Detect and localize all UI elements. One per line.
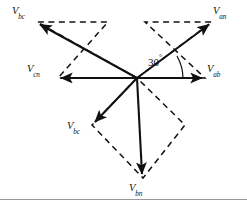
label-vcn-sub: cn xyxy=(33,71,40,79)
label-vbc-lower: Vbc xyxy=(67,121,80,134)
label-van-sub: an xyxy=(219,13,226,21)
phasor-vector-van xyxy=(137,25,209,79)
label-vbn-sub: bn xyxy=(135,190,142,198)
phasor-vector-vbc-upper xyxy=(40,25,137,79)
label-vbc-upper-sub: bc xyxy=(18,13,25,21)
phasor-diagram-figure: Vbc Van Vcn Vab Vbc Vbn 30° xyxy=(0,0,247,211)
angle-value: 30 xyxy=(148,56,159,68)
label-van: Van xyxy=(213,6,227,19)
angle-label-30: 30° xyxy=(148,55,162,68)
phasor-vector-vbc-lower xyxy=(95,78,137,122)
label-vbc-upper: Vbc xyxy=(12,6,25,19)
label-vab-sub: ab xyxy=(213,71,220,79)
degree-symbol: ° xyxy=(159,53,162,62)
bottom-divider xyxy=(0,199,247,200)
phasor-diagram-canvas xyxy=(0,0,247,211)
label-vbc-lower-sub: bc xyxy=(73,128,80,136)
label-vcn: Vcn xyxy=(27,64,40,77)
label-vab: Vab xyxy=(207,64,221,77)
angle-arc-30 xyxy=(177,56,183,78)
phasor-vector-vbn xyxy=(137,78,142,174)
label-vbn: Vbn xyxy=(129,183,143,196)
